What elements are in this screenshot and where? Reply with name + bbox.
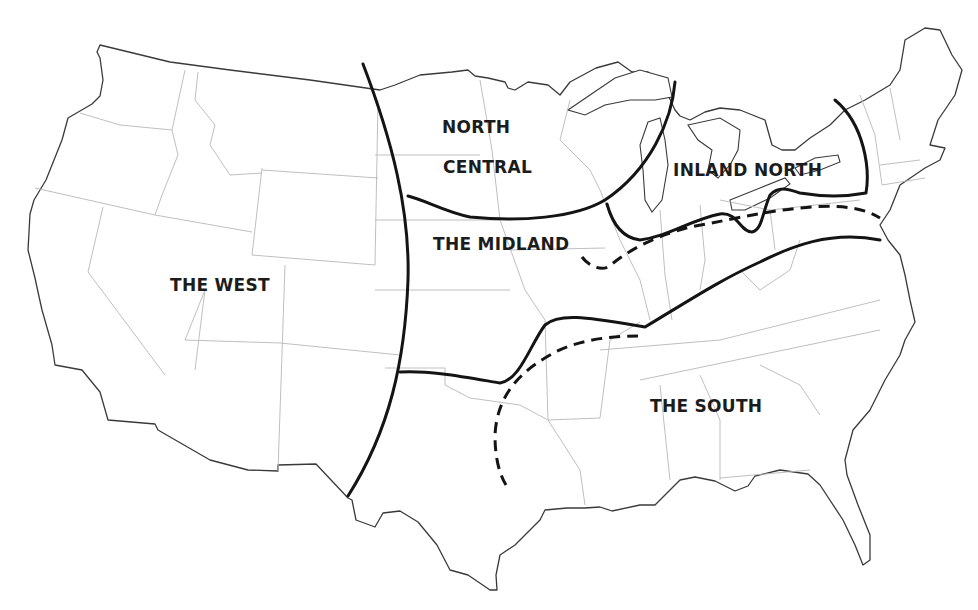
label-inland-north: INLAND NORTH xyxy=(673,160,822,180)
label-north-central-2: CENTRAL xyxy=(443,157,532,177)
us-map-graphic xyxy=(0,0,978,610)
us-coastline xyxy=(28,28,962,590)
label-the-midland: THE MIDLAND xyxy=(433,234,569,254)
label-the-south: THE SOUTH xyxy=(650,396,762,416)
label-north-central-1: NORTH xyxy=(442,117,510,137)
dialect-map: NORTH CENTRAL INLAND NORTH THE MIDLAND T… xyxy=(0,0,978,610)
label-the-west: THE WEST xyxy=(170,275,270,295)
